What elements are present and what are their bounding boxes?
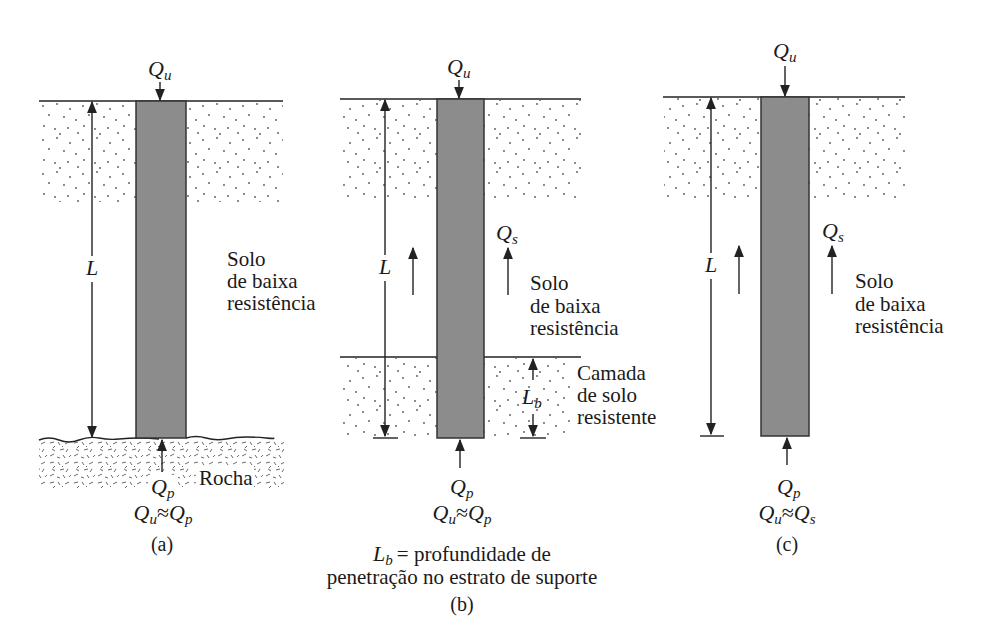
- sand-layer-left: [664, 98, 761, 198]
- sand-layer-right: [186, 102, 283, 202]
- load-relation: Qu≈Qp: [134, 500, 193, 527]
- pile: [136, 101, 186, 438]
- sand-layer-right: [484, 100, 581, 200]
- bearing-label-line2: de solo: [577, 383, 637, 407]
- panel-c: L Qu Qs Solo de baixa resistência Qp Qu≈…: [663, 38, 944, 556]
- caption-c: (c): [776, 533, 798, 556]
- penetration-definition-line2: penetração no estrato de suporte: [327, 565, 598, 589]
- length-label: L: [85, 255, 98, 280]
- load-qu-label: Qu: [148, 56, 171, 83]
- length-label: L: [704, 252, 717, 277]
- bearing-layer-left: [341, 358, 437, 438]
- soil-label-line2: de baixa: [530, 294, 601, 318]
- panel-a: L Qu Solo de baixa resistência Rocha Qp …: [39, 56, 316, 556]
- load-qu-label: Qu: [773, 38, 796, 65]
- caption-b: (b): [450, 593, 473, 616]
- bearing-label-line3: resistente: [577, 405, 656, 429]
- panel-b: L Qu Qs Solo de baixa resistência Lb Cam…: [327, 54, 672, 616]
- pile-diagram: L Qu Solo de baixa resistência Rocha Qp …: [0, 0, 991, 631]
- skin-load-label: Qs: [822, 218, 844, 245]
- point-load-label: Qp: [777, 474, 801, 501]
- load-qu-label: Qu: [447, 54, 470, 81]
- rock-label: Rocha: [199, 466, 253, 490]
- sand-layer-left: [40, 102, 136, 202]
- soil-label-line3: resistência: [855, 314, 944, 338]
- length-label: L: [378, 254, 391, 279]
- bearing-label-line1: Camada: [577, 361, 646, 385]
- skin-load-label: Qs: [496, 220, 518, 247]
- soil-label-line2: de baixa: [855, 292, 926, 316]
- soil-label-line1: Solo: [855, 269, 894, 293]
- soil-label-line1: Solo: [227, 247, 266, 271]
- load-relation: Qu≈Qs: [758, 500, 815, 527]
- point-load-label: Qp: [450, 474, 474, 501]
- penetration-definition-line1: Lb= profundidade de: [372, 541, 551, 568]
- soil-label-line3: resistência: [227, 291, 316, 315]
- soil-label-line2: de baixa: [227, 269, 298, 293]
- sand-layer-left: [341, 100, 437, 200]
- pile: [437, 99, 484, 438]
- load-relation: Qu≈Qp: [433, 500, 492, 527]
- caption-a: (a): [151, 533, 173, 556]
- pile: [761, 97, 809, 436]
- soil-label-line1: Solo: [530, 271, 569, 295]
- soil-label-line3: resistência: [530, 316, 619, 340]
- sand-layer-right: [809, 98, 905, 198]
